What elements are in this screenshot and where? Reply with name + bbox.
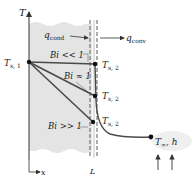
x-axis-label: x [41,168,46,177]
label-bi-large: Bi >> 1 [47,121,82,131]
ts2-label-2: Ts, 2 [102,91,119,102]
label-bi-one: Bi ≈ 1 [63,71,91,81]
ts2-label-1: Ts, 2 [102,60,119,71]
ts1-point [27,60,31,64]
wall-thickness-label: L [89,167,95,176]
ts2-point-bi-large [91,120,95,124]
ts2-label-3: Ts, 2 [102,116,119,127]
ts2-point-bi-one [93,94,97,98]
ts2-point-bi-small [93,62,97,66]
label-bi-small: Bi << 1 [49,50,84,60]
q-conv-label: qconv [126,33,147,44]
fluid-label: T∞, h [155,137,178,148]
biot-number-diagram: T x L qcond qconv Bi << 1 Bi ≈ 1 Bi >> 1… [0,0,192,183]
t-axis-label: T [19,7,27,18]
ts1-label: Ts, 1 [4,58,21,69]
solid-wall [29,22,92,153]
